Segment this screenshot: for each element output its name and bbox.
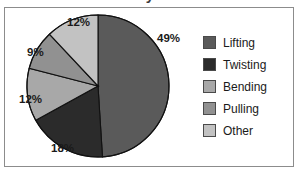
pie-slice-label-other: 12% — [67, 16, 90, 28]
pie-slice-label-twisting: 18% — [51, 142, 74, 154]
pie-slice-label-pulling: 9% — [27, 46, 44, 58]
pie-plot-area: 49%18%12%9%12% — [5, 8, 201, 165]
chart-frame: 49%18%12%9%12% LiftingTwistingBendingPul… — [4, 7, 294, 167]
chart-title-clipped: y — [0, 0, 300, 7]
legend-label-bending: Bending — [223, 81, 267, 93]
legend-item-lifting[interactable]: Lifting — [203, 34, 267, 51]
legend-item-bending[interactable]: Bending — [203, 78, 267, 95]
legend-swatch-other — [203, 124, 216, 137]
legend-item-other[interactable]: Other — [203, 122, 267, 139]
legend-swatch-lifting — [203, 36, 216, 49]
legend-item-twisting[interactable]: Twisting — [203, 56, 267, 73]
legend-label-lifting: Lifting — [223, 37, 255, 49]
chart-legend: LiftingTwistingBendingPullingOther — [203, 34, 267, 139]
pie-slice-label-bending: 12% — [19, 93, 42, 105]
pie-slice-label-lifting: 49% — [157, 32, 180, 44]
legend-label-pulling: Pulling — [223, 103, 259, 115]
legend-swatch-pulling — [203, 102, 216, 115]
chart-title: y — [0, 0, 300, 3]
legend-label-twisting: Twisting — [223, 59, 266, 71]
legend-swatch-bending — [203, 80, 216, 93]
legend-item-pulling[interactable]: Pulling — [203, 100, 267, 117]
legend-swatch-twisting — [203, 58, 216, 71]
legend-label-other: Other — [223, 125, 253, 137]
